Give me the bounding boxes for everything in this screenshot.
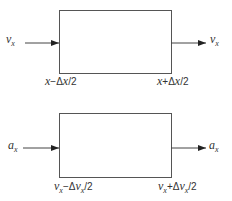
input-label-top: vx [6, 33, 15, 47]
output-label-top: vx [210, 33, 219, 47]
input-label-bottom: ax [8, 139, 18, 153]
right-edge-label-bottom: vx+Δvx/2 [158, 180, 197, 194]
left-edge-label-bottom: vx−Δvx/2 [54, 180, 93, 194]
left-edge-label-top: x−Δx/2 [45, 75, 77, 88]
control-volume-box-bottom [60, 114, 172, 178]
diagram-canvas [0, 0, 232, 201]
right-edge-label-top: x+Δx/2 [157, 75, 189, 88]
output-label-bottom: ax [209, 139, 219, 153]
control-volume-box-top [60, 11, 172, 74]
